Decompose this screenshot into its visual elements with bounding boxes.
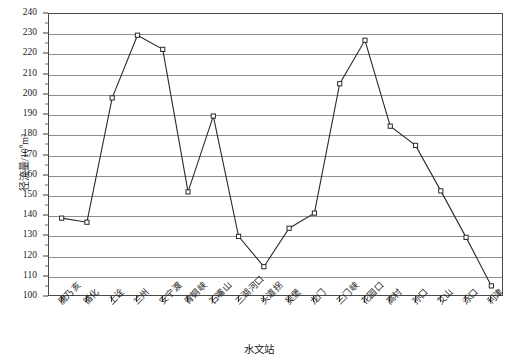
data-point-marker (338, 82, 342, 86)
plot-area (48, 13, 503, 296)
data-point-marker (135, 33, 139, 37)
y-tick-minor (45, 63, 48, 64)
runoff-line-series (49, 14, 504, 297)
y-tick-label: 120 (23, 251, 37, 261)
data-point-marker (464, 235, 468, 239)
y-tick-mark (43, 53, 48, 54)
data-point-marker (262, 265, 266, 269)
y-tick-mark (43, 33, 48, 34)
x-axis-title: 水文站 (0, 341, 517, 356)
y-tick-mark (43, 73, 48, 74)
data-point-marker (236, 234, 240, 238)
data-point-marker (161, 47, 165, 51)
y-tick-mark (43, 174, 48, 175)
y-tick-minor (45, 164, 48, 165)
y-tick-minor (45, 265, 48, 266)
data-point-marker (489, 284, 493, 288)
y-tick-minor (45, 205, 48, 206)
y-tick-label: 210 (23, 69, 37, 79)
y-tick-mark (43, 215, 48, 216)
chart-root: 1001101201301401501601701801902002102202… (0, 0, 517, 360)
y-tick-mark (43, 275, 48, 276)
y-tick-minor (45, 83, 48, 84)
data-point-marker (110, 96, 114, 100)
y-tick-mark (43, 13, 48, 14)
y-tick-minor (45, 245, 48, 246)
y-tick-label: 230 (23, 28, 37, 38)
y-axis-title: 径流量/108m³ (16, 88, 31, 238)
data-point-marker (413, 143, 417, 147)
data-point-marker (186, 190, 190, 194)
y-tick-mark (43, 154, 48, 155)
data-point-marker (439, 189, 443, 193)
y-tick-label: 240 (23, 8, 37, 18)
data-point-marker (85, 220, 89, 224)
y-tick-mark (43, 134, 48, 135)
y-tick-label: 220 (23, 49, 37, 59)
y-tick-mark (43, 235, 48, 236)
y-tick-mark (43, 255, 48, 256)
series-line (62, 35, 492, 286)
y-tick-minor (45, 225, 48, 226)
y-tick-mark (43, 114, 48, 115)
y-tick-mark (43, 93, 48, 94)
y-tick-minor (45, 144, 48, 145)
y-tick-minor (45, 124, 48, 125)
y-tick-minor (45, 184, 48, 185)
data-point-marker (287, 226, 291, 230)
y-tick-mark (43, 194, 48, 195)
data-point-marker (60, 216, 64, 220)
data-point-marker (363, 38, 367, 42)
y-tick-minor (45, 103, 48, 104)
y-tick-minor (45, 23, 48, 24)
y-tick-label: 110 (23, 271, 37, 281)
y-tick-minor (45, 285, 48, 286)
data-point-marker (211, 114, 215, 118)
y-tick-minor (45, 43, 48, 44)
data-point-marker (312, 211, 316, 215)
data-point-marker (388, 124, 392, 128)
